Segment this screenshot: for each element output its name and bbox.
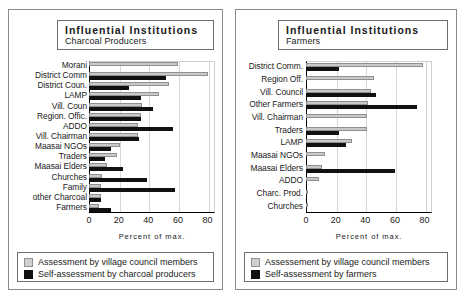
category-label: Traders <box>59 152 87 161</box>
plot-area <box>306 61 432 213</box>
bar-row <box>89 133 215 141</box>
bar-assessment <box>89 62 178 66</box>
legend-swatch-grey-icon <box>24 258 33 267</box>
bar-self-assessment <box>89 188 175 192</box>
bar-self-assessment <box>306 105 417 109</box>
bar-self-assessment <box>306 143 346 147</box>
bar-row <box>89 82 215 90</box>
bar-row <box>306 101 432 109</box>
category-label: District Comm. <box>249 62 303 71</box>
bar-assessment <box>306 177 319 181</box>
plot-area <box>89 61 215 213</box>
legend-label: Self-assessment by farmers <box>265 269 377 280</box>
bar-row <box>89 103 215 111</box>
x-tick-label: 20 <box>114 215 124 226</box>
bar-row <box>306 177 432 185</box>
category-label: other Charcoal <box>33 193 87 202</box>
bar-rows <box>306 61 432 213</box>
bar-self-assessment <box>89 157 105 161</box>
x-tick-label: 80 <box>203 215 213 226</box>
panel-title: Influential Institutions <box>65 24 207 36</box>
bar-row <box>89 143 215 151</box>
bar-self-assessment <box>89 127 173 131</box>
panel-charcoal-producers: Influential Institutions Charcoal Produc… <box>8 9 223 290</box>
category-label: Churches <box>52 173 87 182</box>
category-label: Region Off. <box>261 75 303 84</box>
panel-farmers: Influential Institutions Farmers Distric… <box>235 9 457 290</box>
bar-row <box>306 190 432 198</box>
bar-self-assessment <box>306 118 307 122</box>
bar-self-assessment <box>89 96 141 100</box>
bar-self-assessment <box>306 156 307 160</box>
bar-self-assessment <box>306 169 395 173</box>
x-tick-label: 0 <box>303 215 308 226</box>
panel-subtitle: Charcoal Producers <box>65 36 207 47</box>
bar-self-assessment <box>89 137 139 141</box>
bar-self-assessment <box>306 93 376 97</box>
bar-rows <box>89 61 215 213</box>
bar-row <box>89 92 215 100</box>
category-label: Farmers <box>56 203 87 212</box>
bar-row <box>89 113 215 121</box>
bar-row <box>306 203 432 211</box>
bar-row <box>306 139 432 147</box>
figure-root: Influential Institutions Charcoal Produc… <box>0 0 465 308</box>
x-tick-label: 20 <box>331 215 341 226</box>
legend: Assessement by village council members S… <box>244 252 448 282</box>
legend-item: Assessment by village council members <box>24 256 213 268</box>
x-axis-ticks: 020406080 <box>89 215 215 227</box>
category-label: Family <box>63 183 87 192</box>
category-label: Maasai NGOs <box>251 151 303 160</box>
legend-item: Self-assessment by charcoal producers <box>24 268 213 280</box>
bar-self-assessment <box>89 167 123 171</box>
x-tick-label: 60 <box>173 215 183 226</box>
bar-self-assessment <box>89 117 141 121</box>
x-tick-label: 80 <box>420 215 430 226</box>
category-label: District Comm <box>35 71 87 80</box>
category-label: ADDO <box>279 176 303 185</box>
bar-row <box>89 194 215 202</box>
category-label: Other Farmers <box>249 100 303 109</box>
title-box: Influential Institutions Charcoal Produc… <box>57 20 214 50</box>
bar-row <box>306 89 432 97</box>
bar-self-assessment <box>306 131 339 135</box>
category-label: Maasai NGOs <box>35 142 87 151</box>
bar-self-assessment <box>89 66 90 70</box>
bar-row <box>89 123 215 131</box>
x-tick-label: 40 <box>143 215 153 226</box>
category-label: Maasai Elders <box>35 162 87 171</box>
bar-self-assessment <box>89 208 111 212</box>
bar-row <box>89 153 215 161</box>
bar-row <box>89 163 215 171</box>
category-label: District Coun. <box>37 81 87 90</box>
x-tick-label: 40 <box>360 215 370 226</box>
bar-self-assessment <box>306 207 307 211</box>
category-label: Vill. Chairman <box>36 132 87 141</box>
bar-row <box>89 204 215 212</box>
legend-swatch-black-icon <box>24 270 33 279</box>
bar-self-assessment <box>89 76 166 80</box>
bar-row <box>89 174 215 182</box>
bar-self-assessment <box>306 80 307 84</box>
bar-row <box>306 127 432 135</box>
panel-title: Influential Institutions <box>286 24 441 36</box>
bar-self-assessment <box>306 67 339 71</box>
bar-assessment <box>306 114 367 118</box>
bar-self-assessment <box>89 178 147 182</box>
bar-self-assessment <box>89 147 111 151</box>
category-label: Vill. Coun <box>52 102 87 111</box>
legend-swatch-black-icon <box>251 270 260 279</box>
category-label: Traders <box>275 126 303 135</box>
category-label: LAMP <box>280 138 303 147</box>
bar-self-assessment <box>89 198 101 202</box>
category-label: Region. Offic. <box>37 112 87 121</box>
x-axis-ticks: 020406080 <box>306 215 432 227</box>
x-axis-title: Percent of max. <box>306 232 432 241</box>
bar-assessment <box>306 152 325 156</box>
bar-row <box>306 165 432 173</box>
panel-subtitle: Farmers <box>286 36 441 47</box>
bar-row <box>306 152 432 160</box>
bar-row <box>306 114 432 122</box>
bar-self-assessment <box>306 181 307 185</box>
bar-self-assessment <box>89 86 129 90</box>
